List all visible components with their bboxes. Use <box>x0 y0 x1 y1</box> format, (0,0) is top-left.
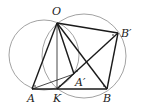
geometry-diagram: OB′AKBA′ <box>0 0 141 106</box>
point-label-ap: A′ <box>74 76 86 89</box>
point-label-bp: B′ <box>120 27 132 40</box>
angle-mark <box>76 70 78 72</box>
left-circle <box>9 20 79 90</box>
segment-a-ap <box>32 74 74 89</box>
angle-mark <box>34 85 36 87</box>
angle-mark <box>103 85 105 87</box>
point-label-b: B <box>102 92 111 105</box>
angle-mark <box>59 85 61 87</box>
segment-o-a <box>32 23 57 89</box>
point-label-a: A <box>26 92 35 105</box>
segment-o-ap <box>57 23 74 74</box>
angle-marks <box>34 34 114 87</box>
point-label-k: K <box>52 92 62 105</box>
point-label-o: O <box>52 5 61 18</box>
angle-mark <box>112 34 114 36</box>
